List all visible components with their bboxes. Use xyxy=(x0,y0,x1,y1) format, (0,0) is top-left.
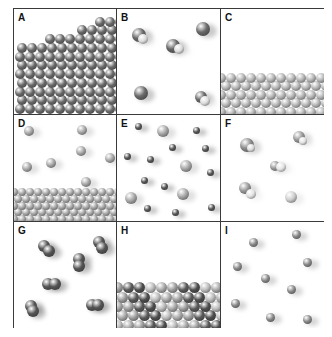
atom xyxy=(105,87,115,97)
atom xyxy=(241,98,251,108)
atom xyxy=(37,78,47,88)
atom xyxy=(22,162,32,172)
atom xyxy=(47,43,57,53)
panel-label: F xyxy=(225,118,231,129)
atom xyxy=(115,104,116,114)
atom xyxy=(27,60,37,70)
atom xyxy=(18,188,26,196)
atom xyxy=(95,69,105,79)
panel-label: I xyxy=(225,225,228,236)
atom xyxy=(138,34,148,44)
atom xyxy=(169,144,176,151)
atom xyxy=(57,43,67,53)
atom xyxy=(35,104,45,114)
atom xyxy=(85,87,95,97)
atom xyxy=(105,69,115,79)
atom xyxy=(75,69,85,79)
atom xyxy=(90,188,98,196)
atom xyxy=(125,192,137,204)
atom xyxy=(202,145,209,152)
atom xyxy=(236,73,246,83)
atom xyxy=(67,78,77,88)
atom xyxy=(286,73,296,83)
atom xyxy=(66,188,74,196)
atom xyxy=(77,60,87,70)
atom xyxy=(150,292,161,303)
atom xyxy=(306,73,316,83)
atom xyxy=(97,60,107,70)
atom xyxy=(208,204,215,211)
atom xyxy=(74,215,82,221)
figure-grid: A B C D E F G H I xyxy=(13,8,324,328)
atom xyxy=(296,73,306,83)
atom xyxy=(47,60,57,70)
atom xyxy=(194,292,205,303)
panel-label: C xyxy=(225,12,232,23)
atom xyxy=(45,69,55,79)
atom xyxy=(65,34,75,44)
atom xyxy=(85,34,95,44)
panel-label: H xyxy=(121,225,128,236)
atom xyxy=(261,274,270,283)
atom xyxy=(303,315,312,324)
atom xyxy=(26,188,34,196)
panel-c: C xyxy=(221,9,324,114)
atom xyxy=(123,282,134,293)
atom xyxy=(216,292,220,303)
atom xyxy=(211,282,221,293)
atom xyxy=(271,98,281,108)
atom xyxy=(77,95,87,105)
atom xyxy=(157,125,169,137)
atom xyxy=(74,188,82,196)
atom xyxy=(77,78,87,88)
atom xyxy=(134,86,148,100)
atom xyxy=(167,282,178,293)
atom xyxy=(107,25,116,35)
panel-label: A xyxy=(18,12,25,23)
atom xyxy=(67,43,77,53)
atom xyxy=(87,25,97,35)
atom xyxy=(256,73,266,83)
panel-label: D xyxy=(18,118,25,129)
atom xyxy=(226,90,236,100)
atom xyxy=(285,191,297,203)
atom xyxy=(105,153,115,163)
atom xyxy=(58,188,66,196)
atom xyxy=(276,162,286,172)
atom xyxy=(189,282,200,293)
panel-e: E xyxy=(117,115,220,221)
atom xyxy=(17,43,27,53)
atom xyxy=(95,104,105,114)
atom xyxy=(105,52,115,62)
atom xyxy=(55,87,65,97)
atom xyxy=(316,90,324,100)
atom xyxy=(246,73,256,83)
atom xyxy=(96,242,108,254)
atom xyxy=(25,87,35,97)
atom xyxy=(47,78,57,88)
atom xyxy=(105,17,115,27)
atom xyxy=(25,52,35,62)
atom xyxy=(35,87,45,97)
atom xyxy=(311,81,321,91)
atom xyxy=(316,73,324,83)
atom xyxy=(73,260,85,272)
atom xyxy=(98,215,106,221)
atom xyxy=(286,90,296,100)
atom xyxy=(85,52,95,62)
atom xyxy=(231,98,241,108)
atom xyxy=(311,98,321,108)
atom xyxy=(77,125,87,135)
atom xyxy=(107,95,116,105)
atom xyxy=(207,169,214,176)
atom xyxy=(117,292,128,303)
atom xyxy=(55,34,65,44)
atom xyxy=(266,73,276,83)
atom xyxy=(37,43,47,53)
atom xyxy=(67,95,77,105)
atom xyxy=(261,81,271,91)
atom xyxy=(276,90,286,100)
atom xyxy=(251,98,261,108)
atom xyxy=(124,153,131,160)
atom xyxy=(247,144,255,152)
